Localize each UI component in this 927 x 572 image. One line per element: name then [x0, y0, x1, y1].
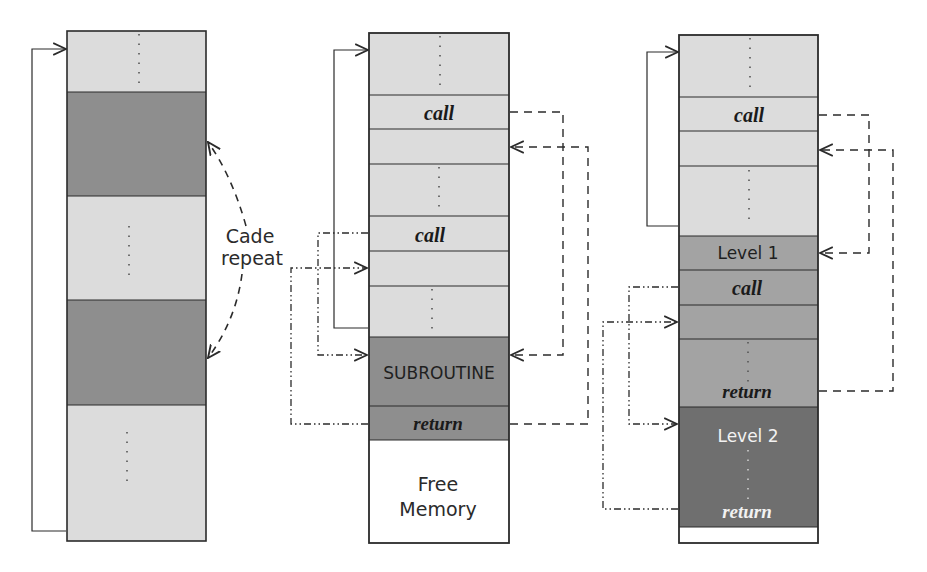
code-repeat-label-2: repeat — [221, 247, 283, 269]
left-seg-1 — [67, 31, 206, 92]
left-seg-3 — [67, 196, 206, 300]
return-1-arrow — [510, 147, 588, 424]
call-2-arrow — [629, 287, 678, 424]
code-repeat-arrow — [208, 142, 246, 226]
middle-loop-arrow — [334, 50, 368, 328]
return-2-arrow — [291, 268, 368, 424]
call-1-arrow — [510, 112, 563, 355]
call-label: call — [424, 102, 454, 124]
left-code-block — [67, 31, 206, 541]
left-loop-arrow — [32, 49, 66, 531]
return-1-arrow — [819, 150, 893, 391]
call-2-arrow — [318, 233, 368, 355]
left-seg-2 — [67, 92, 206, 196]
right-loop-arrow — [647, 52, 678, 226]
level-2-label: Level 2 — [717, 426, 778, 446]
return-label: return — [722, 381, 772, 402]
call-label-2: call — [415, 224, 445, 246]
return-label-2: return — [722, 501, 772, 522]
level-1-label: Level 1 — [717, 243, 778, 263]
code-repeat-arrow-down — [208, 274, 242, 358]
left-seg-4 — [67, 300, 206, 405]
free-memory-label-2: Memory — [399, 498, 476, 520]
call-label: call — [734, 104, 764, 126]
call-1-arrow — [819, 115, 869, 253]
code-repeat-label: Cade — [226, 225, 275, 247]
left-seg-5 — [67, 405, 206, 541]
free-memory-label: Free — [418, 473, 458, 495]
return-2-arrow — [603, 322, 678, 509]
call-label-2: call — [732, 277, 762, 299]
memory-diagram: Cade repeat call call SUBROUTINE return … — [0, 0, 927, 572]
return-label: return — [413, 413, 463, 434]
subroutine-label: SUBROUTINE — [383, 363, 494, 383]
